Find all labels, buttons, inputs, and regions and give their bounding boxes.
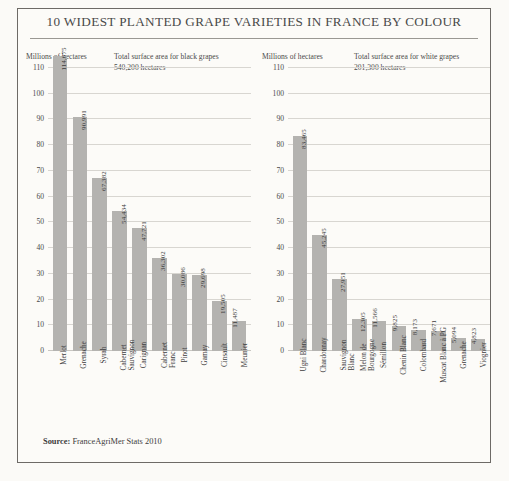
category-label: Chardonnay [320,337,328,372]
category-label: Pinot [181,347,189,362]
category-label: Merlot [60,345,68,365]
category-slot: Syrah [90,353,110,427]
bars-black: 114,67590,99167,38254,43447,72136,30230,… [50,68,249,351]
bar-value-label: 27,951 [339,272,347,292]
y-axis-tick-label: 40 [36,243,44,252]
y-axis-tick-label: 0 [40,346,44,355]
category-label-line1: Grenache [460,341,468,369]
plot-area-black: 1101009080706050403020100 114,67590,9916… [48,68,251,351]
bar[interactable]: 67,382 [92,178,107,351]
panel-white-grapes: Millions of hectares Total surface area … [262,52,490,432]
source-label: Source: [43,437,70,446]
y-axis-tick-label: 90 [36,114,44,123]
category-label: Chenin Blanc [400,335,408,374]
y-axis-tick-label: 110 [33,63,44,72]
bar-slot: 5,094 [448,68,468,351]
y-axis-caption-white: Millions of hectares [262,52,323,61]
bar-value-label: 5,094 [450,327,458,343]
category-label-line1: Carignan [140,342,148,368]
category-label-line1: Chardonnay [320,337,328,372]
source-text: FranceAgriMer Stats 2010 [72,437,161,446]
category-labels-white: Ugni BlancChardonnaySauvignonBlancMelon … [290,353,490,427]
category-label: Sémillon [380,342,388,368]
total-caption-white-line1: Total surface area for white grapes [354,52,459,63]
bar[interactable]: 45,245 [312,235,327,351]
category-label: Grenache [80,341,88,369]
category-label-line1: Colombard [420,339,428,371]
bar-slot: 29,698 [189,68,209,351]
category-slot: Melon deBourgogne [350,353,370,427]
category-slot: Chenin Blanc [390,353,410,427]
y-axis-tick-label: 80 [36,140,44,149]
bar[interactable]: 83,465 [293,136,308,351]
bar-value-label: 45,245 [320,228,328,248]
bar-slot: 30,086 [169,68,189,351]
category-slot: Ugni Blanc [290,353,310,427]
category-label: Grenache [460,341,468,369]
bar-slot: 47,721 [130,68,150,351]
y-axis-tick-label: 50 [36,217,44,226]
bar-slot: 9,825 [389,68,409,351]
bar[interactable]: 47,721 [132,228,147,351]
category-label: Colombard [420,339,428,371]
bar[interactable]: 30,086 [172,274,187,351]
bar[interactable]: 90,991 [73,117,88,351]
bar[interactable]: 54,434 [112,211,127,351]
bar-slot: 11,566 [369,68,389,351]
bar[interactable]: 36,302 [152,258,167,351]
category-slot: Sémillon [370,353,390,427]
y-axis-tick-label: 60 [276,191,284,200]
y-axis-tick-label: 20 [36,294,44,303]
category-label: Meunier [241,343,249,367]
y-axis-tick-label: 50 [276,217,284,226]
bar-value-label: 8,173 [411,319,419,335]
bar-slot: 90,991 [70,68,90,351]
category-label-line1: Cinsault [221,343,229,367]
category-slot: Carignan [130,353,150,427]
category-label-line1: Sauvignon [340,340,348,371]
y-axis-tick-label: 70 [276,165,284,174]
bar-value-label: 12,305 [359,312,367,332]
bar-value-label: 83,465 [300,129,308,149]
category-label-line1: Ugni Blanc [300,339,308,372]
category-label: Muscat Blanc à PG [440,327,448,383]
y-axis-tick-label: 0 [280,346,284,355]
y-axis-tick-label: 10 [276,320,284,329]
bar[interactable]: 29,698 [192,275,207,351]
category-slot: Cinsault [211,353,231,427]
bar-slot: 7,671 [429,68,449,351]
category-label-line1: Sémillon [380,342,388,368]
y-axis-tick-label: 30 [36,268,44,277]
bar-slot: 19,505 [209,68,229,351]
bar-value-label: 90,991 [80,110,88,130]
category-label: Viognier [480,342,488,367]
bar-value-label: 4,823 [470,327,478,343]
bar-slot: 54,434 [110,68,130,351]
bar-slot: 8,173 [409,68,429,351]
y-axis-tick-label: 70 [36,165,44,174]
category-label: Ugni Blanc [300,339,308,372]
bar[interactable]: 114,675 [53,56,68,351]
bar-value-label: 7,671 [430,320,438,336]
category-slot: CabernetSauvignon [110,353,130,427]
bar-slot: 67,382 [90,68,110,351]
total-caption-black-line1: Total surface area for black grapes [114,52,219,63]
category-slot: Viognier [470,353,490,427]
category-slot: CabernetFranc [150,353,170,427]
bar-slot: 114,675 [50,68,70,351]
y-axis-tick-label: 20 [276,294,284,303]
bar-value-label: 11,487 [231,309,239,329]
category-slot: Gamay [191,353,211,427]
y-axis-tick-label: 80 [276,140,284,149]
bar-slot: 36,302 [150,68,170,351]
category-slot: Colombard [410,353,430,427]
bar-value-label: 114,675 [60,47,68,70]
category-label-line1: Viognier [480,342,488,367]
y-axis-tick-label: 100 [33,88,44,97]
category-slot: Muscat Blanc à PG [430,353,450,427]
category-label-line1: Chenin Blanc [400,335,408,374]
category-slot: Pinot [171,353,191,427]
category-label-line1: Gamay [201,345,209,366]
bars-white: 83,46545,24527,95112,30511,5669,8258,173… [290,68,488,351]
bar-value-label: 30,086 [179,267,187,287]
